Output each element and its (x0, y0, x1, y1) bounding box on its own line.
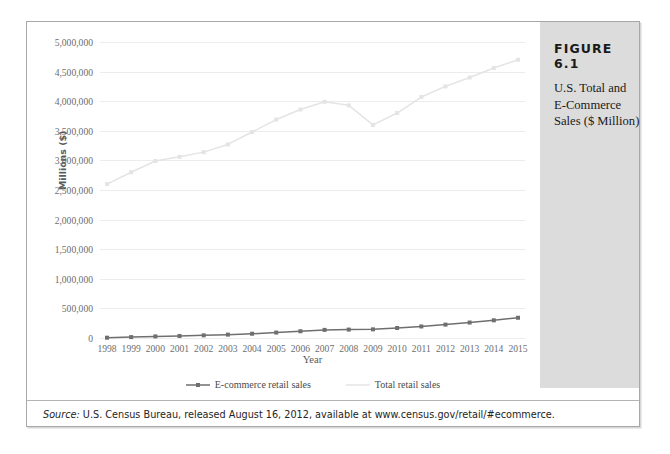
plot-area: 0500,0001,000,0001,500,0002,000,0002,500… (100, 42, 525, 338)
series-data-point (153, 334, 157, 338)
series-data-point (371, 123, 375, 127)
legend-item: Total retail sales (345, 379, 440, 390)
y-axis-tick-label: 0 (88, 333, 93, 344)
series-data-point (298, 329, 302, 333)
series-line (107, 318, 518, 338)
source-note: Source: U.S. Census Bureau, released Aug… (43, 408, 625, 422)
series-data-point (516, 316, 520, 320)
series-data-point (419, 95, 423, 99)
x-axis-tick-label: 2013 (460, 343, 479, 354)
source-divider (27, 400, 639, 401)
y-axis-tick-label: 5,000,000 (55, 37, 93, 48)
series-data-point (274, 331, 278, 335)
series-data-point (250, 130, 254, 134)
x-axis-tick-label: 2015 (508, 343, 527, 354)
series-data-point (443, 84, 447, 88)
x-axis-tick-label: 2000 (146, 343, 165, 354)
y-axis-tick-label: 3,500,000 (55, 125, 93, 136)
figure-container: Millions ($) 0500,0001,000,0001,500,0002… (26, 21, 640, 427)
y-axis-tick-label: 1,500,000 (55, 244, 93, 255)
series-data-point (395, 326, 399, 330)
y-axis-tick-label: 3,000,000 (55, 155, 93, 166)
figure-number: FIGURE 6.1 (554, 41, 639, 71)
source-text: U.S. Census Bureau, released August 16, … (80, 409, 555, 420)
x-axis-tick-label: 2002 (194, 343, 213, 354)
series-data-point (129, 335, 133, 339)
y-axis-tick-label: 2,000,000 (55, 214, 93, 225)
x-axis-tick-label: 2008 (339, 343, 358, 354)
series-data-point (105, 182, 109, 186)
x-axis-tick-label: 2012 (436, 343, 455, 354)
chart-series-svg (100, 42, 525, 338)
series-data-point (347, 328, 351, 332)
legend-item: E-commerce retail sales (185, 379, 311, 390)
series-data-point (274, 118, 278, 122)
cropped-text-above-figure (0, 0, 670, 6)
series-data-point (468, 321, 472, 325)
series-data-point (347, 103, 351, 107)
x-axis-tick-label: 2001 (170, 343, 189, 354)
gridline (100, 338, 525, 339)
series-data-point (492, 66, 496, 70)
chart-region: Millions ($) 0500,0001,000,0001,500,0002… (27, 22, 542, 388)
series-data-point (516, 58, 520, 62)
x-axis-tick-label: 1999 (122, 343, 141, 354)
series-data-point (178, 334, 182, 338)
x-axis-tick-label: 2010 (388, 343, 407, 354)
x-axis-tick-label: 2005 (267, 343, 286, 354)
x-axis-tick-label: 2003 (218, 343, 237, 354)
series-data-point (323, 328, 327, 332)
x-axis-tick-label: 2006 (291, 343, 310, 354)
series-data-point (178, 155, 182, 159)
y-axis-tick-label: 500,000 (62, 303, 93, 314)
legend-swatch-icon (185, 381, 211, 389)
figure-caption-panel: FIGURE 6.1 U.S. Total and E-Commerce Sal… (540, 22, 639, 388)
series-data-point (468, 76, 472, 80)
series-data-point (226, 333, 230, 337)
y-axis-tick-label: 4,000,000 (55, 96, 93, 107)
x-axis-tick-label: 2007 (315, 343, 334, 354)
legend-item-label: E-commerce retail sales (215, 379, 311, 390)
series-data-point (153, 159, 157, 163)
series-data-point (129, 170, 133, 174)
series-line (107, 60, 518, 184)
figure-caption-text: U.S. Total and E-Commerce Sales ($ Milli… (554, 80, 640, 130)
series-data-point (202, 150, 206, 154)
series-data-point (492, 318, 496, 322)
y-axis-tick-label: 1,000,000 (55, 273, 93, 284)
series-data-point (371, 327, 375, 331)
source-label: Source: (43, 409, 80, 420)
x-axis-title: Year (100, 354, 525, 365)
series-data-point (298, 107, 302, 111)
series-data-point (105, 336, 109, 340)
legend-item-label: Total retail sales (375, 379, 440, 390)
series-data-point (395, 111, 399, 115)
series-data-point (202, 333, 206, 337)
chart-legend: E-commerce retail salesTotal retail sale… (100, 379, 525, 390)
series-data-point (250, 332, 254, 336)
series-data-point (226, 142, 230, 146)
series-data-point (443, 323, 447, 327)
legend-swatch-icon (345, 381, 371, 389)
x-axis-tick-label: 1998 (97, 343, 116, 354)
series-data-point (419, 324, 423, 328)
x-axis-tick-label: 2014 (484, 343, 503, 354)
series-data-point (323, 100, 327, 104)
y-axis-tick-label: 2,500,000 (55, 185, 93, 196)
x-axis-tick-label: 2011 (412, 343, 431, 354)
x-axis-tick-label: 2009 (363, 343, 382, 354)
y-axis-tick-label: 4,500,000 (55, 66, 93, 77)
x-axis-tick-label: 2004 (242, 343, 261, 354)
